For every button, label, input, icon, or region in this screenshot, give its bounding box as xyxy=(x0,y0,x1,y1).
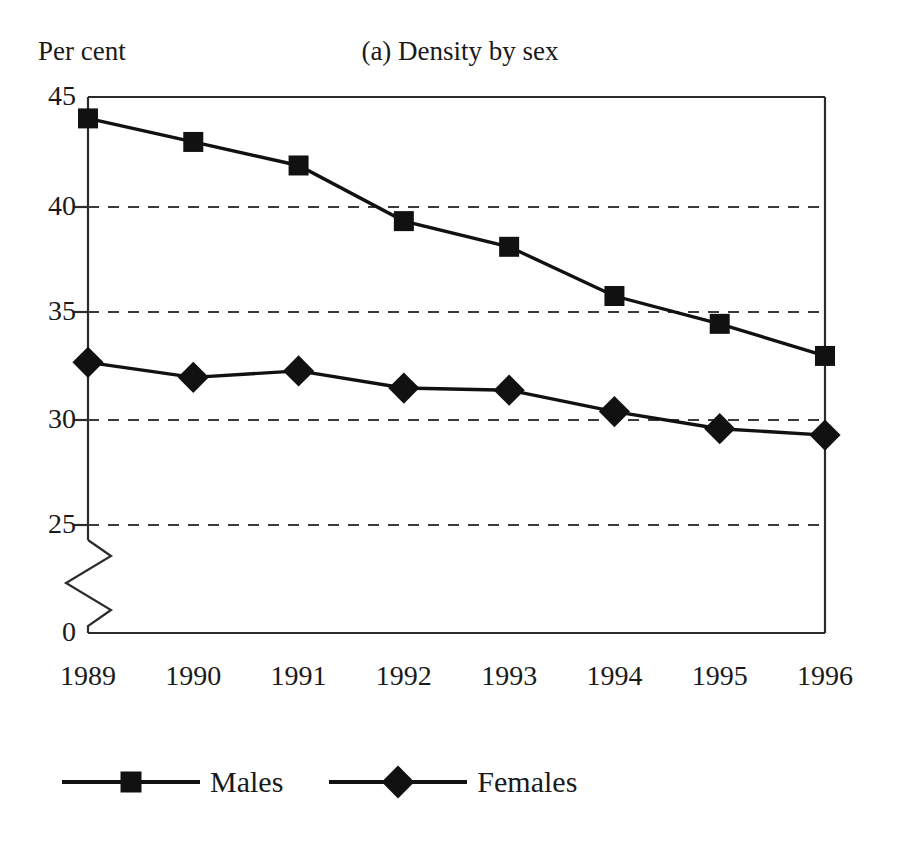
legend-label: Females xyxy=(477,767,577,797)
square-marker xyxy=(60,765,202,799)
x-tick-label: 1996 xyxy=(770,662,880,690)
x-tick-label: 1991 xyxy=(244,662,354,690)
legend-label: Males xyxy=(210,767,283,797)
x-tick-label: 1990 xyxy=(138,662,248,690)
x-tick-label: 1989 xyxy=(33,662,143,690)
x-axis-tick-labels: 19891990199119921993199419951996 xyxy=(0,0,899,843)
x-tick-label: 1992 xyxy=(349,662,459,690)
legend-entry-males[interactable]: Males xyxy=(60,765,283,799)
legend-entry-females[interactable]: Females xyxy=(327,765,577,799)
chart-legend: MalesFemales xyxy=(60,752,840,812)
x-tick-label: 1994 xyxy=(559,662,669,690)
diamond-marker xyxy=(327,765,469,799)
x-tick-label: 1993 xyxy=(454,662,564,690)
x-tick-label: 1995 xyxy=(665,662,775,690)
chart-figure: Per cent (a) Density by sex 4540353025 xyxy=(0,0,899,843)
